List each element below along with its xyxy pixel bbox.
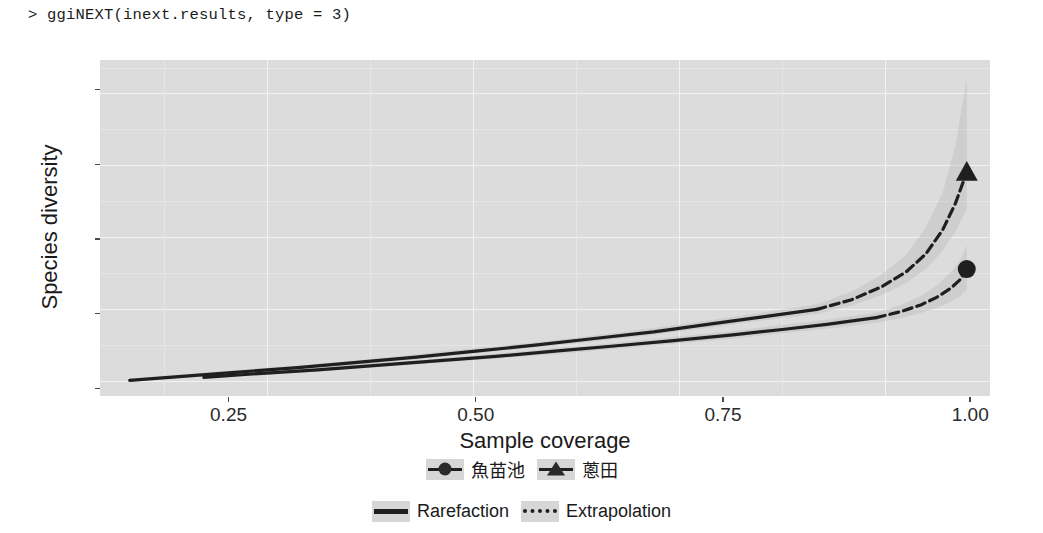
y-tick-mark-0 (95, 388, 100, 390)
observed-point-marker-circle (958, 260, 976, 278)
legend-groups: 魚苗池 蔥田 (0, 456, 1043, 482)
legend-key-solid-line-icon (372, 501, 410, 522)
legend-label-group-2: 蔥田 (582, 456, 618, 482)
y-axis-title: Species diversity (37, 77, 63, 377)
x-tick-label-0.50: 0.50 (457, 404, 494, 426)
legend-entry-group-2[interactable]: 蔥田 (537, 456, 618, 482)
y-axis: Species diversity (18, 60, 78, 396)
legend-key-circle-icon (426, 459, 464, 480)
x-tick-mark-0.25 (228, 397, 230, 402)
x-tick-mark-0.50 (475, 397, 477, 402)
screenshot-root: > ggiNEXT(inext.results, type = 3) (0, 0, 1043, 533)
x-tick-label-0.25: 0.25 (210, 404, 247, 426)
plot-curves-svg (100, 60, 990, 396)
y-tick-mark-20 (95, 238, 100, 240)
legend-key-triangle-icon (537, 459, 575, 480)
legend-entry-method-1[interactable]: Rarefaction (372, 501, 509, 522)
y-tick-mark-10 (95, 313, 100, 315)
console-command-line: > ggiNEXT(inext.results, type = 3) (28, 6, 351, 24)
legend-label-method-1: Rarefaction (417, 501, 509, 522)
y-tick-mark-40 (95, 89, 100, 91)
x-axis-title: Sample coverage (100, 428, 990, 454)
confidence-band-1 (130, 79, 967, 381)
legend-label-method-2: Extrapolation (566, 501, 671, 522)
x-tick-label-1.00: 1.00 (952, 404, 989, 426)
legend-methods: Rarefaction Extrapolation (0, 501, 1043, 522)
legend-entry-method-2[interactable]: Extrapolation (521, 501, 671, 522)
gginext-plot-figure: Species diversity 010203040 0.250.500.75… (0, 38, 1043, 533)
legend-entry-group-1[interactable]: 魚苗池 (426, 456, 525, 482)
legend-label-group-1: 魚苗池 (471, 456, 525, 482)
x-tick-mark-1.00 (969, 397, 971, 402)
x-tick-mark-0.75 (722, 397, 724, 402)
confidence-band-2 (204, 245, 967, 378)
y-tick-mark-30 (95, 164, 100, 166)
plot-panel (100, 60, 990, 396)
legend-key-dashed-line-icon (521, 501, 559, 522)
x-tick-label-0.75: 0.75 (705, 404, 742, 426)
